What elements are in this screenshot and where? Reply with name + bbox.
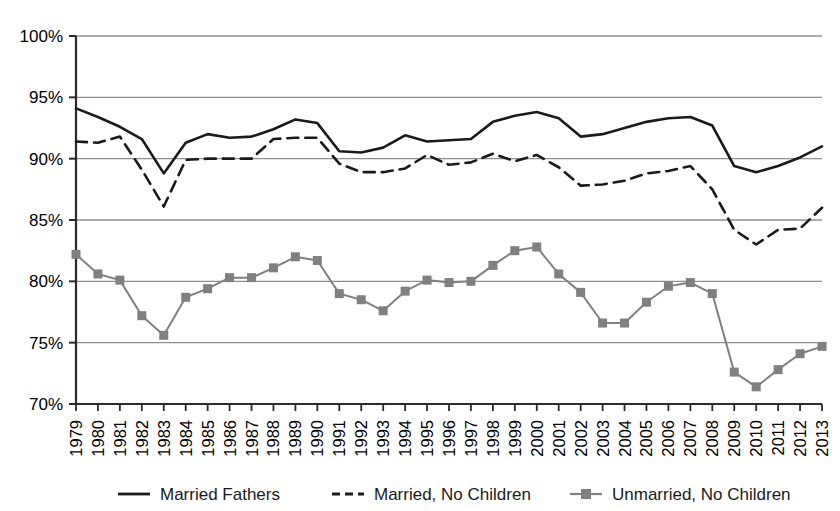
data-point-marker — [93, 269, 102, 278]
data-point-marker — [203, 284, 212, 293]
x-axis-tick-label: 2006 — [659, 420, 677, 457]
x-axis-tick-label: 2002 — [572, 420, 590, 457]
x-axis-tick-label: 2007 — [681, 420, 699, 457]
data-point-marker — [708, 289, 717, 298]
data-point-marker — [752, 382, 761, 391]
legend-label-0: Married Fathers — [160, 485, 280, 504]
data-point-marker — [642, 298, 651, 307]
x-axis-tick-label: 1996 — [440, 420, 458, 457]
legend-label-2: Unmarried, No Children — [612, 485, 791, 504]
data-point-marker — [357, 295, 366, 304]
x-axis-tick-label: 1997 — [462, 420, 480, 457]
y-axis-tick-label: 95% — [29, 88, 63, 107]
x-axis-tick-label: 1994 — [396, 420, 414, 457]
x-axis-tick-label: 2003 — [594, 420, 612, 457]
data-point-marker — [423, 276, 432, 285]
data-point-marker — [159, 331, 168, 340]
data-point-marker — [401, 287, 410, 296]
data-point-marker — [488, 261, 497, 270]
legend-label-1: Married, No Children — [374, 485, 531, 504]
x-axis-tick-label: 1993 — [374, 420, 392, 457]
data-point-marker — [686, 278, 695, 287]
x-axis-tick-label: 2009 — [725, 420, 743, 457]
y-axis-tick-label: 90% — [29, 150, 63, 169]
data-point-marker — [115, 276, 124, 285]
x-axis-tick-label: 1985 — [199, 420, 217, 457]
x-axis-tick-label: 2008 — [703, 420, 721, 457]
x-axis-tick-label: 1983 — [155, 420, 173, 457]
x-axis-tick-label: 1992 — [352, 420, 370, 457]
x-axis-tick-label: 1999 — [506, 420, 524, 457]
x-axis-tick-label: 1984 — [177, 420, 195, 457]
chart-legend: Married FathersMarried, No ChildrenUnmar… — [118, 485, 791, 504]
data-point-marker — [225, 273, 234, 282]
x-axis-tick-label: 2001 — [550, 420, 568, 457]
line-chart: 100%95%90%85%80%75%70% 19791980198119821… — [0, 0, 840, 511]
data-point-marker — [137, 311, 146, 320]
data-point-marker — [664, 282, 673, 291]
x-axis-tick-label: 1988 — [264, 420, 282, 457]
x-axis-tick-labels: 1979198019811982198319841985198619871988… — [67, 420, 831, 457]
data-point-marker — [532, 242, 541, 251]
y-axis-tick-label: 100% — [20, 27, 63, 46]
data-point-marker — [796, 349, 805, 358]
x-axis-tick-label: 2011 — [769, 420, 787, 455]
y-axis-tick-label: 70% — [29, 395, 63, 414]
data-point-marker — [620, 319, 629, 328]
data-point-marker — [598, 319, 607, 328]
data-point-marker — [466, 277, 475, 286]
x-axis-tick-label: 2000 — [528, 420, 546, 457]
x-axis-tick-label: 1980 — [89, 420, 107, 457]
data-point-marker — [730, 368, 739, 377]
x-axis-tick-label: 2013 — [813, 420, 831, 457]
x-axis-tick-label: 1990 — [308, 420, 326, 457]
data-point-marker — [774, 365, 783, 374]
y-axis-tick-label: 85% — [29, 211, 63, 230]
y-axis-tick-label: 80% — [29, 272, 63, 291]
y-axis-tick-label: 75% — [29, 334, 63, 353]
x-axis-tick-label: 2010 — [747, 420, 765, 457]
x-axis-tick-label: 1989 — [286, 420, 304, 457]
data-point-marker — [313, 256, 322, 265]
x-axis-tick-label: 2004 — [616, 420, 634, 457]
chart-container: 100%95%90%85%80%75%70% 19791980198119821… — [0, 0, 840, 511]
data-point-marker — [445, 278, 454, 287]
data-point-marker — [291, 252, 300, 261]
x-axis-tick-label: 1987 — [243, 420, 261, 457]
data-point-marker — [554, 269, 563, 278]
x-axis-tick-label: 1995 — [418, 420, 436, 457]
data-point-marker — [818, 342, 827, 351]
data-point-marker — [576, 288, 585, 297]
x-axis-tick-label: 1981 — [111, 420, 129, 457]
x-axis-tick-label: 1982 — [133, 420, 151, 457]
legend-swatch-marker-2 — [581, 489, 591, 499]
data-point-marker — [72, 250, 81, 259]
data-point-marker — [510, 246, 519, 255]
x-axis-tick-label: 1998 — [484, 420, 502, 457]
x-axis-tick-label: 2005 — [637, 420, 655, 457]
x-axis-tick-label: 1986 — [221, 420, 239, 457]
x-axis-tick-label: 2012 — [791, 420, 809, 457]
data-point-marker — [379, 306, 388, 315]
x-axis-tick-label: 1991 — [330, 420, 348, 457]
data-point-marker — [181, 293, 190, 302]
data-point-marker — [335, 289, 344, 298]
data-point-marker — [269, 263, 278, 272]
x-axis-tick-label: 1979 — [67, 420, 85, 457]
data-point-marker — [247, 273, 256, 282]
